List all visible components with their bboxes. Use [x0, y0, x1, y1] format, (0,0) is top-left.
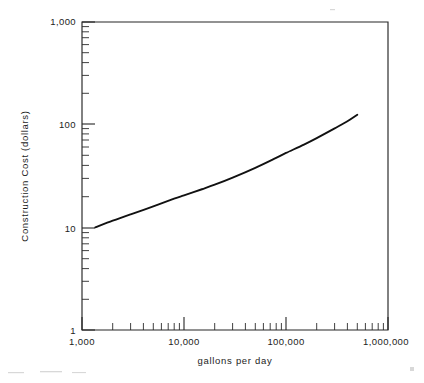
y-axis-minor-ticks-upper	[82, 27, 89, 94]
x-axis-minor-ticks-right	[317, 323, 384, 330]
x-axis-title: gallons per day	[198, 355, 273, 366]
y-tick-label-100: 100	[59, 119, 76, 130]
y-axis-minor-ticks-lower	[82, 233, 89, 300]
x-tick-label-100000: 100,000	[267, 336, 304, 347]
y-axis-minor-ticks-mid	[82, 129, 89, 197]
x-axis-minor-ticks-left	[113, 323, 180, 330]
x-axis-major-ticks	[82, 317, 388, 330]
scan-artifacts	[8, 9, 414, 373]
y-tick-label-10: 10	[65, 223, 76, 234]
x-axis-minor-ticks-mid	[215, 323, 282, 330]
y-axis-major-ticks	[82, 22, 95, 330]
figure-root: 1,000 100 10 1 Construction Cost (dollar…	[0, 0, 424, 383]
construction-cost-curve	[95, 115, 357, 228]
x-tick-label-1000000: 1,000,000	[363, 336, 409, 347]
x-tick-label-1000: 1,000	[69, 336, 95, 347]
y-axis-title: Construction Cost (dollars)	[19, 110, 30, 241]
y-tick-label-1000: 1,000	[50, 16, 76, 27]
y-axis: 1,000 100 10 1 Construction Cost (dollar…	[19, 16, 95, 336]
x-tick-label-10000: 10,000	[168, 336, 199, 347]
x-axis: 1,000 10,000 100,000 1,000,000 gallons p…	[69, 317, 409, 366]
y-tick-label-1: 1	[70, 325, 76, 336]
construction-cost-chart: 1,000 100 10 1 Construction Cost (dollar…	[0, 0, 424, 383]
data-series-group	[95, 115, 357, 228]
